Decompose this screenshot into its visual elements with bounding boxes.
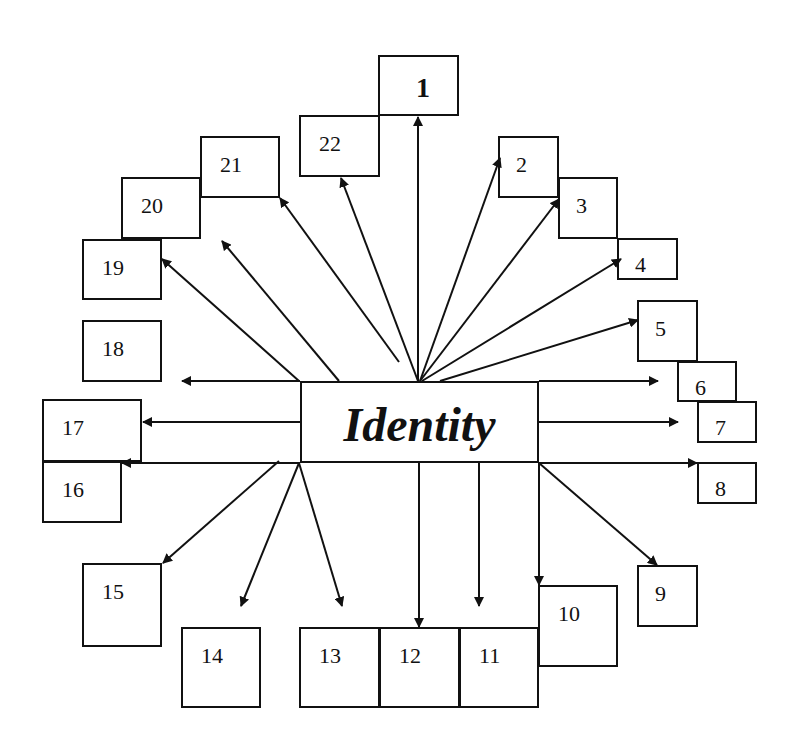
identity-diagram: Identity 1234567891011121314151617181920…	[0, 0, 800, 753]
box-label: 16	[62, 479, 84, 501]
box-9: 9	[637, 565, 698, 627]
arrow-to-4	[422, 259, 621, 381]
box-label: 12	[399, 645, 421, 667]
box-17: 17	[42, 399, 142, 462]
box-label: 21	[220, 154, 242, 176]
box-20: 20	[121, 177, 201, 239]
box-11: 11	[459, 627, 539, 708]
box-label: 14	[201, 645, 223, 667]
box-label: 22	[319, 133, 341, 155]
box-13: 13	[299, 627, 380, 708]
box-label: 17	[62, 417, 84, 439]
box-5: 5	[637, 300, 698, 362]
box-7: 7	[697, 401, 757, 443]
box-14: 14	[181, 627, 261, 708]
box-label: 19	[102, 257, 124, 279]
arrow-to-15	[163, 461, 279, 563]
box-label: 4	[635, 254, 646, 276]
box-6: 6	[677, 361, 737, 402]
box-label: 7	[715, 417, 726, 439]
box-label: 5	[655, 318, 666, 340]
box-label: 9	[655, 583, 666, 605]
box-label: 18	[102, 338, 124, 360]
box-1: 1	[378, 55, 459, 116]
arrow-to-22	[341, 178, 418, 381]
box-label: 13	[319, 645, 341, 667]
box-15: 15	[82, 563, 162, 647]
arrow-to-14	[241, 463, 299, 606]
arrow-to-3	[420, 199, 559, 381]
arrow-to-20	[222, 241, 339, 381]
box-22: 22	[299, 115, 380, 177]
arrow-to-19	[162, 259, 299, 381]
box-label: 20	[141, 195, 163, 217]
box-2: 2	[498, 136, 559, 198]
box-label: 15	[102, 581, 124, 603]
box-label: 1	[416, 74, 430, 102]
box-10: 10	[538, 585, 618, 667]
arrow-to-21	[280, 198, 399, 362]
box-label: 11	[479, 645, 500, 667]
box-18: 18	[82, 320, 162, 382]
box-label: 6	[695, 377, 706, 399]
box-label: 3	[576, 195, 587, 217]
box-16: 16	[42, 461, 122, 523]
box-12: 12	[379, 627, 460, 708]
box-19: 19	[82, 239, 162, 300]
arrow-to-2	[420, 158, 500, 381]
arrow-to-13	[299, 463, 342, 606]
box-8: 8	[697, 462, 757, 504]
box-21: 21	[200, 136, 280, 198]
identity-label: Identity	[302, 397, 537, 452]
box-label: 2	[516, 154, 527, 176]
identity-center-box: Identity	[300, 381, 539, 463]
box-3: 3	[558, 177, 618, 239]
box-label: 10	[558, 603, 580, 625]
arrow-to-5	[440, 320, 638, 381]
box-4: 4	[617, 238, 678, 280]
arrow-to-9	[539, 463, 657, 565]
box-label: 8	[715, 478, 726, 500]
